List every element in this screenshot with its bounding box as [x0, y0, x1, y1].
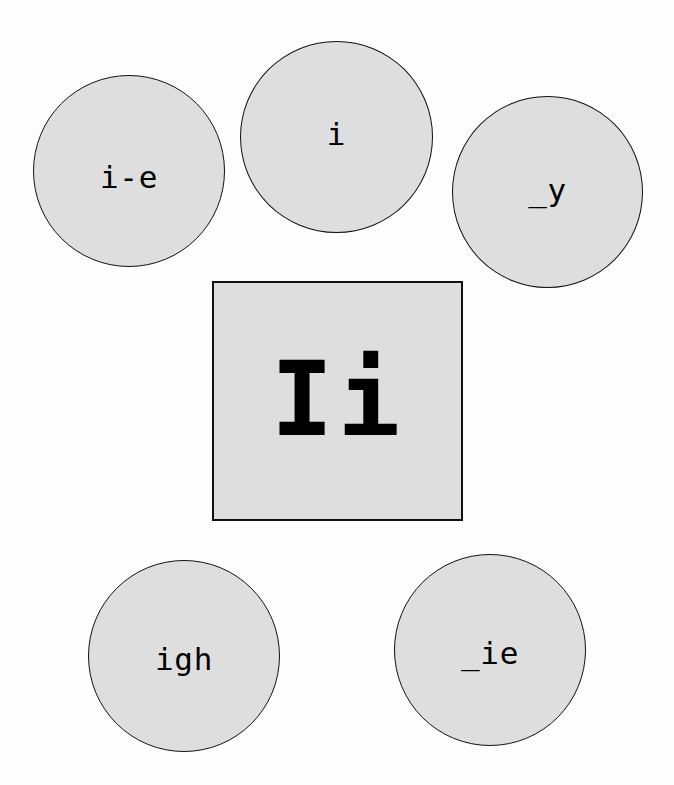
grapheme-label: _ie: [461, 638, 519, 669]
main-grapheme-label: Ii: [271, 347, 405, 451]
main-grapheme-card[interactable]: Ii: [212, 281, 463, 521]
grapheme-label: i-e: [100, 162, 158, 193]
grapheme-board: i-e i _y Ii igh _ie: [0, 0, 674, 785]
grapheme-bubble-i-e[interactable]: i-e: [33, 75, 225, 267]
grapheme-bubble-y[interactable]: _y: [452, 96, 643, 288]
grapheme-label: igh: [155, 644, 213, 675]
grapheme-bubble-ie[interactable]: _ie: [394, 554, 586, 746]
grapheme-label: _y: [528, 175, 567, 206]
grapheme-label: i: [327, 119, 346, 150]
grapheme-bubble-igh[interactable]: igh: [88, 560, 280, 752]
grapheme-bubble-i[interactable]: i: [240, 41, 433, 233]
